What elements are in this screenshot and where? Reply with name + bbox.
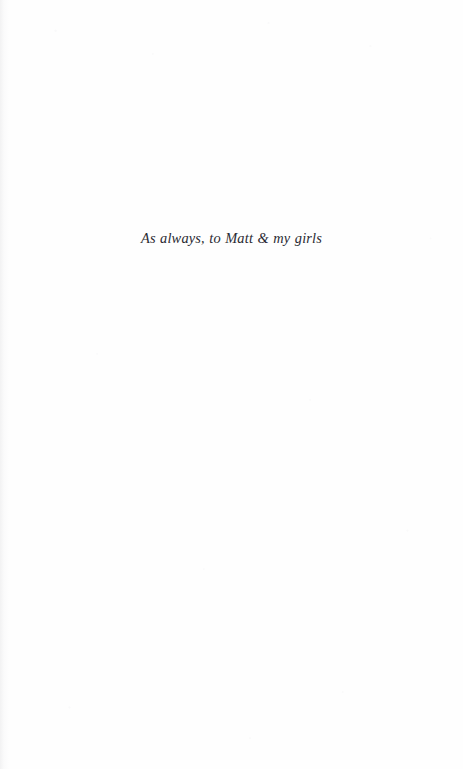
scan-noise-overlay bbox=[0, 0, 463, 769]
scan-gutter-shadow bbox=[0, 0, 9, 769]
book-page: As always, to Matt & my girls bbox=[0, 0, 463, 769]
dedication-text: As always, to Matt & my girls bbox=[141, 229, 322, 247]
dedication-block: As always, to Matt & my girls bbox=[0, 228, 463, 248]
